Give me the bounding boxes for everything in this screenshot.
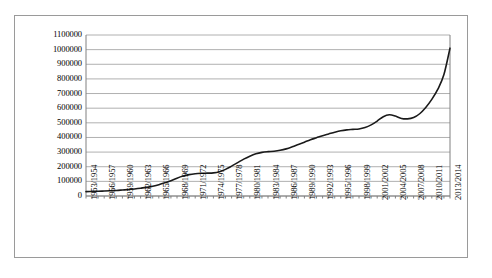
x-tick-label: 2001/2002 [381, 165, 390, 200]
y-tick-label: 1000000 [16, 45, 82, 54]
x-tick-label: 1983/1984 [272, 165, 281, 200]
y-tick-label: 300000 [16, 147, 82, 156]
x-tick-label: 2007/2008 [417, 165, 426, 200]
x-tick-label: 1989/1990 [308, 165, 317, 200]
x-tick-label: 1992/1993 [326, 165, 335, 200]
y-tick-label: 500000 [16, 118, 82, 127]
y-tick-label: 0 [16, 191, 82, 200]
x-tick-label: 1986/1987 [290, 165, 299, 200]
y-tick-label: 100000 [16, 176, 82, 185]
y-tick-label: 600000 [16, 103, 82, 112]
x-tick-label: 1962/1963 [144, 165, 153, 200]
x-tick-label: 1971/1972 [199, 165, 208, 200]
x-tick-label: 1974/1975 [217, 165, 226, 200]
x-tick-label: 1998/1999 [363, 165, 372, 200]
x-tick-label: 2010/2011 [435, 165, 444, 200]
y-tick-label: 800000 [16, 74, 82, 83]
y-tick-label: 1100000 [16, 30, 82, 39]
y-tick-label: 400000 [16, 132, 82, 141]
x-tick-label: 1965/1966 [162, 165, 171, 200]
x-tick-label: 1977/1978 [235, 165, 244, 200]
x-tick-label: 1959/1960 [126, 165, 135, 200]
y-tick-label: 200000 [16, 162, 82, 171]
x-tick-label: 2004/2005 [399, 165, 408, 200]
y-tick-label: 900000 [16, 59, 82, 68]
x-tick-label: 1953/1954 [90, 165, 99, 200]
x-tick-label: 1968/1969 [181, 165, 190, 200]
x-tick-label: 2013/2014 [454, 165, 463, 200]
x-tick-label: 1995/1996 [344, 165, 353, 200]
data-series-line [86, 48, 450, 191]
chart-figure: 1100000100000090000080000070000060000050… [0, 0, 492, 278]
x-tick-label: 1956/1957 [108, 165, 117, 200]
y-tick-label: 700000 [16, 89, 82, 98]
x-tick-label: 1980/1981 [253, 165, 262, 200]
x-tick-marks-group [86, 196, 450, 199]
